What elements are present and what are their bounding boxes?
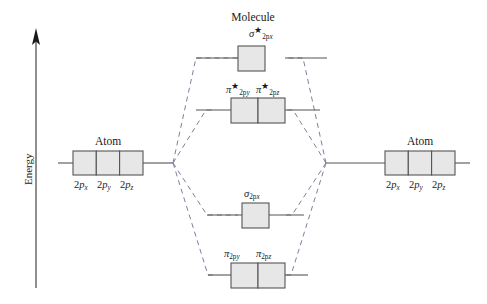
atom-right-heading: Atom [395, 136, 445, 148]
atom-left-heading: Atom [83, 136, 133, 148]
atom-right-level [326, 151, 470, 175]
ao-right-label-0: 2px [386, 180, 400, 193]
mo-level-sigma-star-2px [196, 46, 327, 71]
molecule-heading: Molecule [228, 12, 278, 24]
mo-diagram-figure: Energy Molecule Atom Atom σ★2px π★2py π★… [0, 0, 487, 304]
correlation-lines-right [285, 58, 326, 275]
label-sigma-star-2px: σ★2px [249, 26, 273, 41]
energy-axis-label: Energy [22, 153, 34, 185]
ao-left-label-2: 2pz [120, 180, 133, 193]
ao-left-label-0: 2px [74, 180, 88, 193]
mo-level-sigma-2px [207, 203, 304, 228]
label-pi-star-2py: π★2py [226, 82, 250, 97]
label-pi-2pz: π2pz [256, 249, 271, 262]
label-pi-star-2pz: π★2pz [256, 82, 279, 97]
label-sigma-2px: σ2px [244, 189, 260, 202]
ao-right-label-2: 2pz [432, 180, 445, 193]
mo-diagram-canvas [0, 0, 487, 304]
ao-left-label-1: 2py [97, 180, 111, 193]
mo-level-pi-bonding [208, 263, 308, 288]
atom-left-level [58, 151, 173, 175]
ao-right-label-1: 2py [409, 180, 423, 193]
label-pi-2py: π2py [224, 249, 240, 262]
mo-level-pi-star [196, 98, 320, 123]
